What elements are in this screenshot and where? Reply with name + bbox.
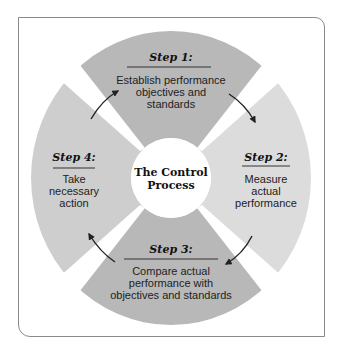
step-3-line-1: Compare actual bbox=[132, 265, 210, 277]
center-label-line-2: Process bbox=[147, 179, 195, 192]
step-3-line-3: objectives and standards bbox=[110, 289, 232, 301]
step-4-line-3: action bbox=[59, 197, 88, 209]
step-4-line-1: Take bbox=[62, 173, 85, 185]
step-2-line-1: Measure bbox=[245, 173, 288, 185]
step-2-title: Step 2: bbox=[244, 151, 287, 164]
step-1-line-2: objectives and bbox=[136, 86, 206, 98]
step-4-line-2: necessary bbox=[49, 185, 100, 197]
step-2-line-3: performance bbox=[235, 197, 297, 209]
center-label-line-1: The Control bbox=[134, 166, 208, 179]
step-4-title: Step 4: bbox=[52, 151, 95, 164]
step-2-line-2: actual bbox=[251, 185, 280, 197]
step-1-line-1: Establish performance bbox=[116, 74, 225, 86]
step-3-title: Step 3: bbox=[149, 243, 192, 256]
step-1-title: Step 1: bbox=[149, 51, 192, 64]
step-3-line-2: performance with bbox=[129, 277, 213, 289]
control-process-diagram: The Control Process Step 1: Establish pe… bbox=[0, 0, 342, 350]
step-1-line-3: standards bbox=[147, 98, 196, 110]
